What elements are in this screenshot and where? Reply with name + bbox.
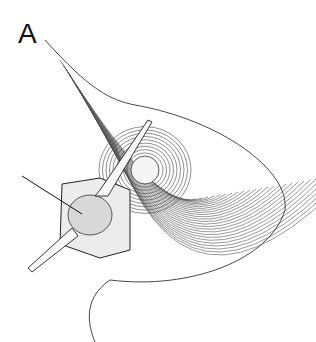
lower-retractor[interactable] xyxy=(28,228,78,272)
exposed-tissue xyxy=(68,195,112,235)
illustration xyxy=(0,0,316,342)
contour-line xyxy=(60,60,190,200)
nipple xyxy=(131,156,159,184)
figure-panel: A xyxy=(0,0,316,342)
